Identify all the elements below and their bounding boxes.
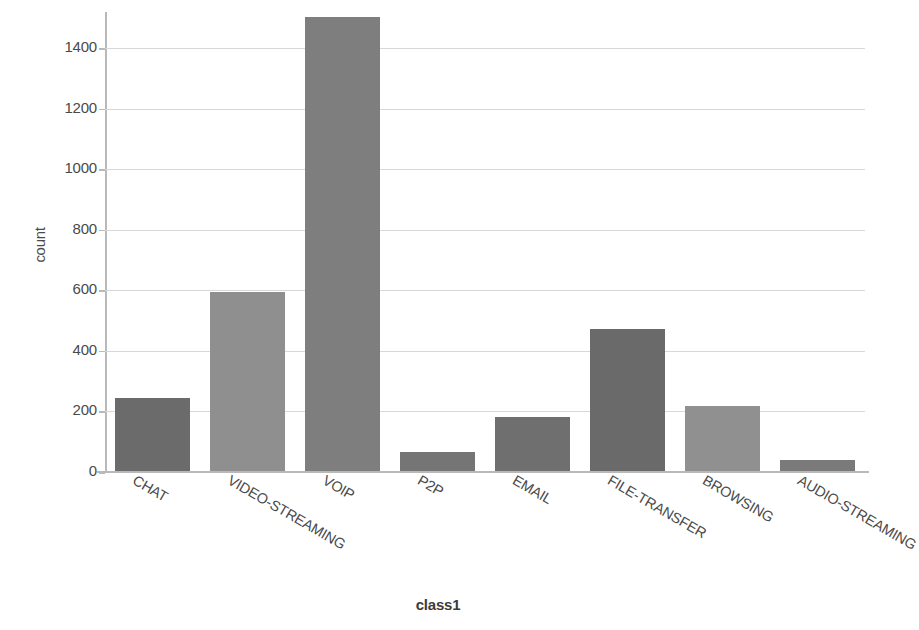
plot-area: 0200400600800100012001400 [105,12,865,472]
y-tick-label: 1400 [27,38,97,55]
bar[interactable] [495,417,569,471]
bar[interactable] [780,460,854,472]
y-tick-label: 600 [27,280,97,297]
bar[interactable] [400,452,474,471]
x-tick-labels: CHATVIDEO-STREAMINGVOIPP2PEMAILFILE-TRAN… [105,472,876,592]
x-axis-title: class1 [0,596,876,613]
bar[interactable] [590,329,664,471]
x-tick-label: VOIP [320,472,357,503]
y-tick-label: 1000 [27,159,97,176]
bar[interactable] [115,398,189,471]
y-tick-label: 800 [27,220,97,237]
y-tick-label: 200 [27,401,97,418]
x-tick-label: CHAT [130,472,171,505]
x-tick-label: AUDIO-STREAMING [795,472,919,553]
y-tick-label: 0 [27,462,97,479]
y-tick-label: 400 [27,341,97,358]
bar[interactable] [305,17,379,471]
x-tick-label: P2P [415,472,446,499]
bar-series [105,12,865,472]
y-tick-labels: 0200400600800100012001400 [19,12,97,472]
x-tick-label: EMAIL [510,472,555,507]
bar[interactable] [685,406,759,471]
y-tick-label: 1200 [27,99,97,116]
x-tick-label: BROWSING [700,472,776,525]
bar[interactable] [210,292,284,471]
x-tick-label: FILE-TRANSFER [605,472,709,541]
